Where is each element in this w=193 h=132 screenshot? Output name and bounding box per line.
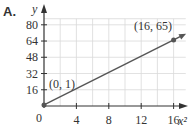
svg-text:(0, 1): (0, 1) [49,77,75,91]
panel-label: A. [3,4,16,19]
svg-text:32: 32 [26,67,38,81]
svg-text:(16, 65): (16, 65) [134,19,172,33]
svg-text:48: 48 [26,50,38,64]
origin-label: 0 [36,111,42,125]
data-line [42,34,187,108]
svg-text:12: 12 [135,113,147,127]
x-axis-label: x² [177,114,187,128]
chart: A. 4812161632486480 (0, 1)(16, 65) y x² … [0,0,193,132]
svg-text:64: 64 [26,34,38,48]
svg-text:80: 80 [26,18,38,32]
tick-labels: 4812161632486480 [26,18,180,127]
svg-text:16: 16 [26,83,38,97]
annotations: (0, 1)(16, 65) [49,19,172,91]
y-axis-label: y [31,2,38,16]
svg-text:4: 4 [73,113,79,127]
svg-text:8: 8 [106,113,112,127]
